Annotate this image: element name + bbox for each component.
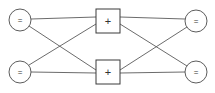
equals-icon: = — [194, 17, 199, 26]
edge-mid1-out1 — [120, 17, 185, 19]
edge-in2-mid2 — [31, 72, 96, 73]
edge-mid1-out2 — [120, 24, 187, 66]
input-node-in1[interactable]: = — [9, 9, 31, 31]
edge-mid2-out2 — [120, 72, 185, 73]
edge-in2-mid1 — [29, 24, 96, 65]
hidden-node-mid1[interactable]: + — [96, 9, 120, 33]
input-node-in2[interactable]: = — [9, 61, 31, 83]
node-graph: = = + + = = — [0, 0, 215, 93]
equals-icon: = — [18, 16, 23, 25]
edge-in1-mid2 — [29, 26, 96, 70]
equals-icon: = — [18, 68, 23, 77]
hidden-node-mid2[interactable]: + — [96, 60, 120, 84]
plus-icon: + — [105, 15, 111, 27]
plus-icon: + — [105, 66, 111, 78]
output-node-out2[interactable]: = — [185, 61, 207, 83]
edge-mid2-out1 — [120, 27, 187, 70]
equals-icon: = — [194, 68, 199, 77]
diagram-canvas: = = + + = = — [0, 0, 215, 93]
output-node-out1[interactable]: = — [185, 10, 207, 32]
edge-in1-mid1 — [31, 17, 96, 19]
